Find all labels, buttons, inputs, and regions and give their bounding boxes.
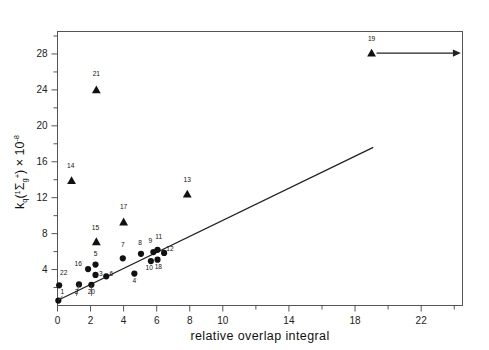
marker-circle-8 (138, 251, 144, 257)
point-label-3: 3 (99, 270, 103, 277)
point-label-20: 20 (88, 288, 96, 295)
point-label-7: 7 (121, 241, 125, 248)
x-tick-label: 14 (283, 315, 295, 326)
y-tick-label: 28 (36, 48, 48, 59)
x-tick-label: 22 (416, 315, 428, 326)
x-tick-label: 2 (88, 315, 94, 326)
y-axis-ticks (52, 36, 58, 288)
plot-frame (58, 32, 463, 306)
marker-circle-7 (120, 255, 126, 261)
ylabel-ten: 10 (13, 142, 27, 156)
point-label-6: 6 (109, 270, 113, 277)
point-label-8: 8 (138, 239, 142, 246)
point-label-10: 10 (146, 264, 154, 271)
point-label-9: 9 (149, 237, 153, 244)
annotation-arrow (377, 49, 461, 56)
point-label-22: 22 (60, 269, 68, 276)
y-axis-label: kq(1Σg+) × 10-8 (12, 135, 29, 209)
x-tick-label: 18 (349, 315, 361, 326)
point-label-4: 4 (133, 277, 137, 284)
x-tick-label: 10 (217, 315, 229, 326)
marker-triangle-15 (92, 237, 101, 245)
x-axis-tick-labels: 0246810141822 (55, 315, 427, 326)
marker-triangle-17 (119, 218, 128, 226)
x-tick-label: 6 (154, 315, 160, 326)
marker-circle-16 (85, 266, 91, 272)
marker-triangle-21 (92, 85, 101, 93)
point-label-21: 21 (93, 70, 101, 77)
marker-triangle-13 (183, 190, 192, 198)
scatter-plot: 0246810141822 481216202428 1222201653674… (0, 0, 489, 350)
y-tick-label: 4 (42, 264, 48, 275)
x-tick-label: 8 (187, 315, 193, 326)
marker-circle-5 (92, 262, 98, 268)
ylabel-exponent: -8 (12, 135, 21, 142)
point-label-18: 18 (155, 263, 163, 270)
marker-triangle-19 (367, 49, 376, 57)
marker-circle-11 (154, 247, 160, 253)
marker-triangle-14 (67, 176, 76, 184)
point-label-19: 19 (368, 35, 376, 42)
x-tick-label: 0 (55, 315, 61, 326)
point-label-17: 17 (120, 203, 128, 210)
point-label-13: 13 (184, 176, 192, 183)
x-tick-label: 4 (121, 315, 127, 326)
point-label-1: 1 (61, 288, 65, 295)
point-label-5: 5 (94, 250, 98, 257)
y-tick-label: 20 (36, 120, 48, 131)
y-tick-label: 24 (36, 84, 48, 95)
y-tick-label: 12 (36, 192, 48, 203)
svg-text:kq(1Σg+) × 10-8: kq(1Σg+) × 10-8 (12, 135, 29, 209)
marker-circle-3 (92, 272, 98, 278)
chart-figure: 0246810141822 481216202428 1222201653674… (0, 0, 489, 350)
data-markers (55, 49, 376, 304)
point-label-14: 14 (67, 162, 75, 169)
arrow-head (453, 49, 461, 56)
point-label-12: 12 (166, 245, 174, 252)
y-tick-label: 8 (42, 228, 48, 239)
point-label-2: 2 (75, 288, 79, 295)
x-axis-ticks (58, 306, 455, 312)
point-label-11: 11 (155, 233, 162, 240)
point-label-15: 15 (92, 224, 100, 231)
x-axis-label: relative overlap integral (190, 329, 329, 343)
data-point-labels: 12222016536748911121018142115171319 (58, 35, 375, 300)
point-label-16: 16 (74, 260, 82, 267)
y-tick-label: 16 (36, 156, 48, 167)
ylabel-times: × (13, 156, 27, 170)
y-axis-tick-labels: 481216202428 (36, 48, 48, 275)
